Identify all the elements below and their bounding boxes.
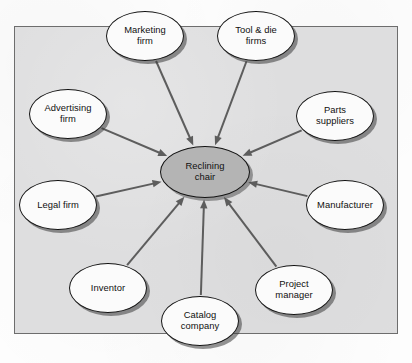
edge-marketing-firm-arrowhead-icon — [186, 136, 193, 146]
edge-tool-and-die-firms-line — [217, 61, 246, 139]
edge-parts-suppliers — [243, 130, 302, 155]
node-advertising-firm-label: Advertisingfirm — [42, 103, 95, 125]
node-project-manager-label: Projectmanager — [272, 279, 315, 301]
node-marketing-firm-label: Marketingfirm — [121, 25, 169, 47]
edge-catalog-company-line — [201, 205, 204, 295]
edge-advertising-firm-line — [102, 128, 162, 153]
node-legal-firm[interactable]: Legal firm — [19, 180, 97, 230]
node-marketing-firm-label-line-2: firm — [121, 36, 169, 47]
edge-manufacturer — [248, 181, 307, 196]
edge-legal-firm-line — [96, 183, 156, 196]
node-advertising-firm[interactable]: Advertisingfirm — [29, 89, 107, 139]
edge-marketing-firm — [156, 61, 193, 145]
node-reclining-chair-label: Recliningchair — [182, 161, 227, 183]
node-advertising-firm-label-line-2: firm — [42, 114, 95, 125]
node-parts-suppliers-label: Partssuppliers — [313, 105, 357, 127]
edge-catalog-company — [200, 199, 207, 295]
edge-parts-suppliers-line — [249, 130, 302, 153]
edge-project-manager — [224, 197, 276, 267]
edge-legal-firm — [96, 180, 162, 196]
edge-tool-and-die-firms — [215, 61, 247, 145]
edge-catalog-company-arrowhead-icon — [200, 199, 207, 208]
node-marketing-firm[interactable]: Marketingfirm — [106, 11, 184, 61]
node-tool-and-die-firms-label: Tool & diefirms — [232, 25, 280, 47]
node-parts-suppliers-label-line-2: suppliers — [313, 116, 357, 127]
diagram-canvas: MarketingfirmTool & diefirmsAdvertisingf… — [0, 0, 412, 363]
edge-manufacturer-arrowhead-icon — [248, 181, 258, 188]
node-inventor-label: Inventor — [88, 283, 128, 294]
edge-parts-suppliers-arrowhead-icon — [243, 149, 253, 156]
edge-advertising-firm-arrowhead-icon — [157, 149, 167, 156]
node-tool-and-die-firms[interactable]: Tool & diefirms — [217, 11, 295, 61]
edge-marketing-firm-line — [156, 61, 191, 140]
node-manufacturer[interactable]: Manufacturer — [306, 180, 384, 230]
node-reclining-chair[interactable]: Recliningchair — [160, 146, 250, 198]
node-catalog-company-label: Catalogcompany — [178, 310, 222, 332]
node-project-manager[interactable]: Projectmanager — [255, 265, 333, 315]
node-catalog-company-label-line-2: company — [178, 321, 222, 332]
node-tool-and-die-firms-label-line-2: firms — [232, 36, 280, 47]
node-inventor[interactable]: Inventor — [69, 263, 147, 313]
node-legal-firm-label-line-1: Legal firm — [34, 200, 82, 211]
node-manufacturer-label: Manufacturer — [314, 200, 376, 211]
node-project-manager-label-line-2: manager — [272, 290, 315, 301]
node-manufacturer-label-line-1: Manufacturer — [314, 200, 376, 211]
edge-legal-firm-arrowhead-icon — [152, 180, 162, 187]
node-parts-suppliers[interactable]: Partssuppliers — [296, 91, 374, 141]
node-inventor-label-line-1: Inventor — [88, 283, 128, 294]
edge-tool-and-die-firms-arrowhead-icon — [215, 135, 222, 145]
node-reclining-chair-label-line-2: chair — [182, 172, 227, 183]
node-legal-firm-label: Legal firm — [34, 200, 82, 211]
edge-advertising-firm — [102, 128, 168, 156]
edge-manufacturer-line — [254, 184, 307, 197]
edge-project-manager-line — [228, 202, 277, 266]
node-catalog-company[interactable]: Catalogcompany — [161, 296, 239, 346]
edge-inventor — [127, 197, 184, 266]
edge-inventor-line — [127, 202, 180, 266]
